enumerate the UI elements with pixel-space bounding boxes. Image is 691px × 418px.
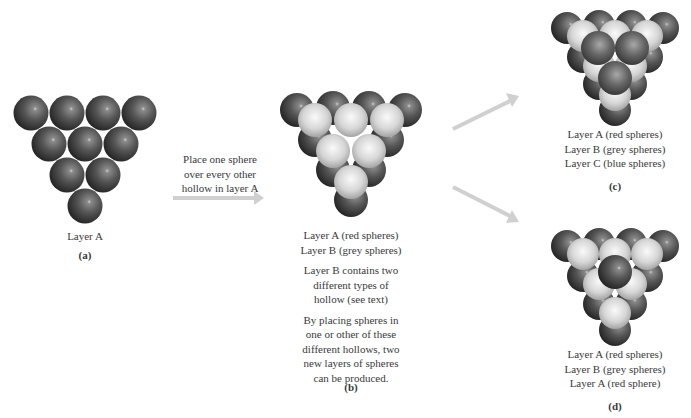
caption-line: Layer A (red spheres) bbox=[548, 347, 682, 362]
arrow-text-line: Place one sphere bbox=[165, 152, 275, 167]
panel-d-label: (d) bbox=[565, 400, 665, 412]
caption-line: Layer B (grey spheres) bbox=[548, 142, 682, 157]
note-line: hollow (see text) bbox=[286, 292, 416, 307]
note-line: one or other of these bbox=[286, 327, 416, 342]
panel-a-spheres bbox=[14, 96, 157, 224]
note-line: Layer B contains two bbox=[286, 263, 416, 278]
note-line: new layers of spheres bbox=[286, 356, 416, 371]
arrow-b-to-c bbox=[453, 93, 519, 129]
arrow-ab-text: Place one sphere over every other hollow… bbox=[165, 152, 275, 196]
note-line: different types of bbox=[286, 278, 416, 293]
caption-line: Layer A (red spheres) bbox=[548, 127, 682, 142]
caption-line: Layer B (grey spheres) bbox=[548, 362, 682, 377]
panel-c-caption: Layer A (red spheres) Layer B (grey sphe… bbox=[548, 127, 682, 171]
arrow-text-line: over every other bbox=[165, 167, 275, 182]
panel-a-label: (a) bbox=[35, 249, 135, 261]
panel-c-spheres bbox=[551, 10, 679, 126]
caption-line: Layer A (red spheres) bbox=[286, 228, 416, 243]
panel-a-caption: Layer A bbox=[35, 229, 135, 244]
note-line: different hollows, two bbox=[286, 342, 416, 357]
panel-b-placement-note: By placing spheres in one or other of th… bbox=[286, 313, 416, 386]
arrow-b-to-d bbox=[453, 187, 519, 223]
panel-b-label: (b) bbox=[301, 381, 401, 393]
caption-line: Layer A bbox=[35, 229, 135, 244]
panel-c-label: (c) bbox=[565, 180, 665, 192]
panel-d-spheres bbox=[551, 228, 679, 346]
caption-line: Layer C (blue spheres) bbox=[548, 156, 682, 171]
caption-line: Layer A (red sphere) bbox=[548, 376, 682, 391]
panel-b-spheres bbox=[280, 91, 422, 217]
note-line: By placing spheres in bbox=[286, 313, 416, 328]
panel-b-caption: Layer A (red spheres) Layer B (grey sphe… bbox=[286, 228, 416, 385]
panel-d-caption: Layer A (red spheres) Layer B (grey sphe… bbox=[548, 347, 682, 391]
arrow-text-line: hollow in layer A bbox=[165, 181, 275, 196]
caption-line: Layer B (grey spheres) bbox=[286, 243, 416, 258]
panel-b-hollow-note: Layer B contains two different types of … bbox=[286, 263, 416, 307]
